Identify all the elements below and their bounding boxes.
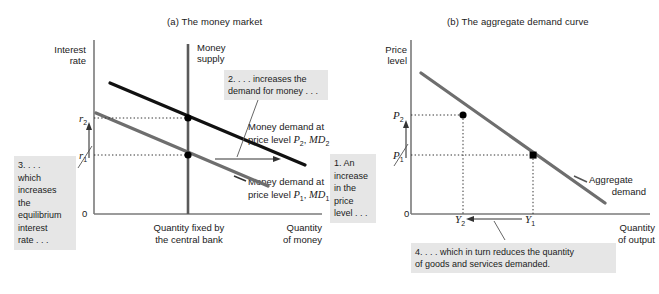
panel-a-equilibrium-point-r1 [184,151,191,158]
figure-money-market-and-aggregate-demand: (a) The money market Interest rate Money… [0,0,659,294]
panel-a-interest-rate-increase-arrowhead [86,122,92,130]
panel-a-callout-step-3-leader [78,146,92,168]
panel-b-aggregate-demand-curve [421,73,605,203]
panel-a-demand-shift-arrowhead [273,156,281,162]
panel-b-point-at-p2-y2 [459,111,466,118]
panel-b-price-level-increase-arrowhead [403,120,409,128]
panel-b-callout-step-4-leader [494,221,505,240]
panel-b-quantity-decrease-arrowhead [466,216,474,222]
panel-a-equilibrium-point-r2 [184,114,191,121]
panel-a-money-demand-md2-curve [110,83,305,165]
diagram-vector-layer [0,0,659,294]
panel-b-point-at-p1-y1 [530,152,537,159]
panel-a-callout-step-2-leader [237,100,258,157]
panel-a-money-demand-md1-curve [96,113,268,186]
